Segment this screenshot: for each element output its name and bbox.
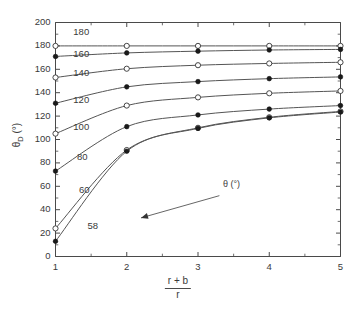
data-point-marker xyxy=(338,88,343,93)
figure-plot-area: θD (°) r + b r 0204060801001201401601802… xyxy=(0,0,358,314)
curve-label: 180 xyxy=(73,26,89,37)
y-axis-tick-label: 200 xyxy=(35,16,51,27)
data-point-marker xyxy=(124,85,129,90)
curve-label: 60 xyxy=(79,184,90,195)
data-point-marker xyxy=(53,169,58,174)
y-axis-title: θD (°) xyxy=(11,105,25,165)
curve-label: 160 xyxy=(73,48,89,59)
data-point-marker xyxy=(124,103,129,108)
data-point-marker xyxy=(267,116,272,121)
data-point-marker xyxy=(195,63,200,68)
curve-label: 80 xyxy=(77,151,88,162)
data-point-marker xyxy=(53,75,58,80)
data-point-marker xyxy=(124,51,129,56)
data-point-marker xyxy=(267,91,272,96)
data-point-marker xyxy=(124,66,129,71)
data-point-marker xyxy=(124,124,129,129)
y-axis-tick-label: 60 xyxy=(40,180,51,191)
x-axis-tick-label: 2 xyxy=(117,261,137,272)
curve-series xyxy=(53,60,343,80)
curve-label: 140 xyxy=(73,67,89,78)
data-point-marker xyxy=(53,131,58,136)
annotation-arrow-head xyxy=(141,213,149,219)
y-axis-title-theta: θ xyxy=(11,142,22,148)
curve-series xyxy=(53,75,343,106)
y-axis-tick-label: 0 xyxy=(45,250,50,261)
y-axis-tick-label: 180 xyxy=(35,39,51,50)
y-axis-tick-label: 140 xyxy=(35,86,51,97)
curves-group xyxy=(53,43,343,243)
axes-group xyxy=(56,23,341,257)
y-axis-tick-label: 160 xyxy=(35,63,51,74)
y-axis-tick-label: 20 xyxy=(40,227,51,238)
annotation-arrow-line xyxy=(141,196,219,218)
x-axis-tick-label: 4 xyxy=(259,261,279,272)
data-point-marker xyxy=(338,103,343,108)
data-point-marker xyxy=(196,113,201,118)
data-point-marker xyxy=(338,60,343,65)
data-point-marker xyxy=(53,239,58,244)
data-point-marker xyxy=(124,149,129,154)
data-point-marker xyxy=(267,48,272,53)
annotation-theta-label: θ (°) xyxy=(223,179,240,189)
data-point-marker xyxy=(124,43,129,48)
data-point-marker xyxy=(196,49,201,54)
data-point-marker xyxy=(338,47,343,52)
curve-series xyxy=(53,43,343,48)
y-axis-tick-label: 120 xyxy=(35,110,51,121)
data-point-marker xyxy=(338,110,343,115)
y-axis-tick-label: 80 xyxy=(40,156,51,167)
data-point-marker xyxy=(53,54,58,59)
y-axis-tick-label: 100 xyxy=(35,133,51,144)
x-axis-tick-label: 3 xyxy=(188,261,208,272)
curve-label: 100 xyxy=(73,121,89,132)
data-point-marker xyxy=(196,126,201,131)
x-axis-tick-label: 1 xyxy=(46,261,66,272)
plot-frame xyxy=(56,23,341,257)
x-axis-title: r + b r xyxy=(165,276,191,300)
curve-series xyxy=(53,103,343,173)
data-point-marker xyxy=(267,61,272,66)
x-axis-title-denominator: r xyxy=(165,289,191,301)
data-point-marker xyxy=(196,79,201,84)
x-axis-tick-label: 5 xyxy=(331,261,351,272)
annotation-arrow-group xyxy=(141,196,219,219)
data-point-marker xyxy=(53,101,58,106)
curve-series xyxy=(53,47,343,59)
data-point-marker xyxy=(53,226,58,231)
y-axis-tick-label: 40 xyxy=(40,203,51,214)
data-point-marker xyxy=(338,75,343,80)
y-axis-title-unit: (°) xyxy=(11,123,22,136)
data-point-marker xyxy=(195,43,200,48)
data-point-marker xyxy=(195,95,200,100)
curve-label: 58 xyxy=(88,220,99,231)
data-point-marker xyxy=(53,43,58,48)
data-point-marker xyxy=(267,76,272,81)
y-axis-title-subscript: D xyxy=(16,136,25,141)
data-point-marker xyxy=(267,107,272,112)
curve-line xyxy=(56,112,341,241)
x-axis-title-numerator: r + b xyxy=(165,276,191,289)
curve-label: 120 xyxy=(73,94,89,105)
